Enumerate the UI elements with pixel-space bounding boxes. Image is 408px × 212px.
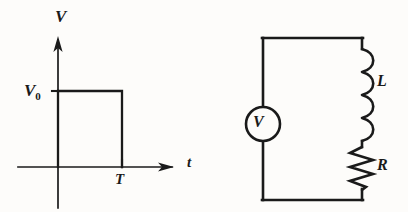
voltage-pulse-graph <box>18 36 174 208</box>
inductor-label: L <box>377 73 387 89</box>
figure-svg <box>0 0 408 212</box>
v0-amplitude-label: V0 <box>24 82 41 102</box>
v0-amplitude-label-base: V <box>24 81 35 100</box>
lr-circuit-diagram <box>246 38 373 200</box>
voltmeter-label: V <box>253 114 264 130</box>
v0-amplitude-label-subscript: 0 <box>35 90 41 102</box>
time-axis-label: t <box>187 155 191 170</box>
figure-root: V V0 t T V L R <box>0 0 408 212</box>
inductor-coil <box>362 49 373 141</box>
pulse-width-label: T <box>115 172 124 187</box>
resistor-label: R <box>377 157 388 173</box>
resistor-zigzag <box>350 147 373 190</box>
voltage-axis-label: V <box>55 8 66 25</box>
pulse-waveform <box>58 91 122 167</box>
